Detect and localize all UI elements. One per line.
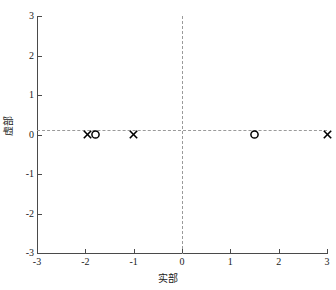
x-tick-label-5: 2 <box>266 256 292 268</box>
x-tick-label-4: 1 <box>217 256 243 268</box>
y-tick-label-4: 1 <box>8 89 34 101</box>
x-tick-label-6: 3 <box>314 256 336 268</box>
x-tick-4 <box>230 249 231 253</box>
y-tick-0 <box>38 253 42 254</box>
y-tick-2 <box>38 174 42 175</box>
y-tick-label-0: -3 <box>8 247 34 259</box>
pole-zero-plot-figure: -3-2-10123 -3-2-10123 实部 虚部 <box>0 0 336 290</box>
origin-vertical-dashed-line <box>182 16 183 254</box>
x-tick-5 <box>279 249 280 253</box>
y-axis-label: 虚部 <box>0 101 15 151</box>
x-tick-label-1: -2 <box>72 256 98 268</box>
x-tick-1 <box>85 249 86 253</box>
y-tick-6 <box>38 16 42 17</box>
x-tick-label-2: -1 <box>121 256 147 268</box>
y-tick-label-1: -2 <box>8 208 34 220</box>
x-tick-label-3: 0 <box>169 256 195 268</box>
y-tick-1 <box>38 214 42 215</box>
y-tick-4 <box>38 95 42 96</box>
y-tick-label-2: -1 <box>8 168 34 180</box>
y-tick-3 <box>38 135 42 136</box>
x-tick-2 <box>134 249 135 253</box>
y-tick-label-6: 3 <box>8 10 34 22</box>
y-tick-label-5: 2 <box>8 50 34 62</box>
x-tick-3 <box>182 249 183 253</box>
x-tick-6 <box>327 249 328 253</box>
y-tick-5 <box>38 56 42 57</box>
x-axis-label: 实部 <box>0 270 336 285</box>
